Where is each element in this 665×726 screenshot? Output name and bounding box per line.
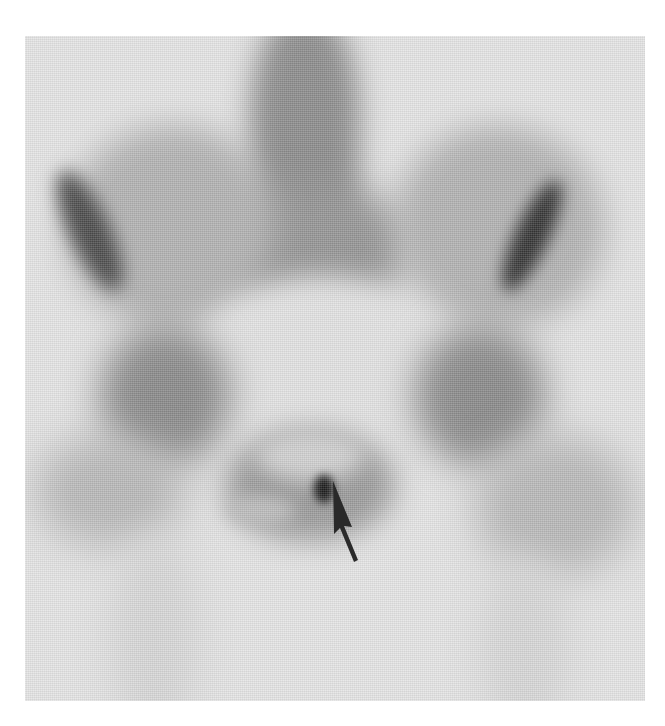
arrow-icon bbox=[0, 0, 665, 726]
